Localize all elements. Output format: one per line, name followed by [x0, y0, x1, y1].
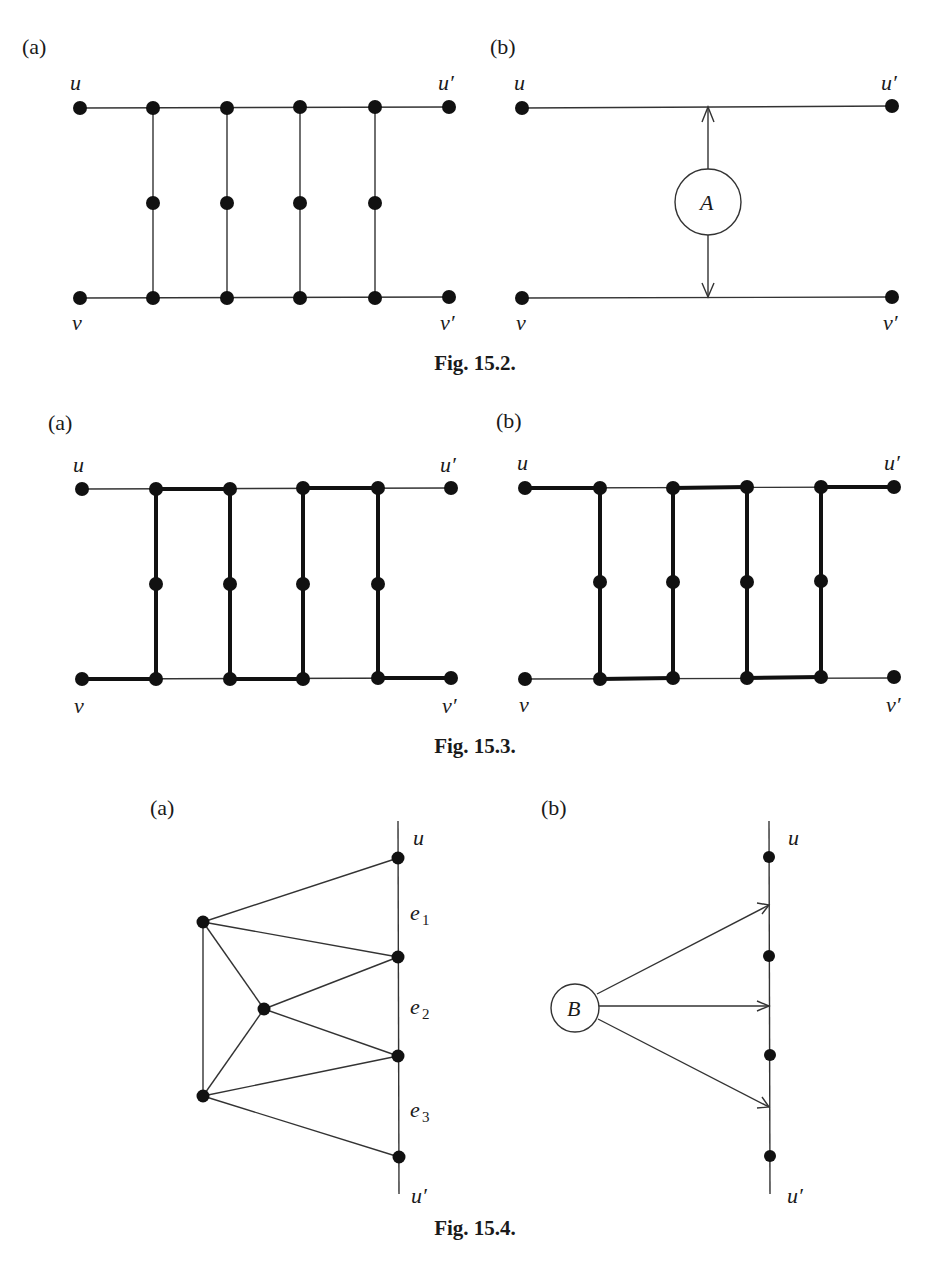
vertex-label-u: u [70, 70, 81, 95]
vertex-label-v: v [74, 693, 84, 718]
fig-15-2-panel-b: (b) A u u′ v v′ [490, 34, 899, 335]
edge [264, 1009, 398, 1056]
vertex-label-u-prime: u′ [881, 70, 898, 95]
edge [203, 1056, 398, 1096]
edge-label-e3: e 3 [410, 1097, 430, 1125]
figure-caption: Fig. 15.3. [434, 734, 516, 758]
vertex-label-u-prime: u′ [787, 1183, 804, 1208]
fig-15-2-panel-a: (a) u u′ v v′ [22, 34, 456, 335]
edge-top-rail [80, 107, 449, 108]
fig-15-3-panel-a: (a) [48, 410, 458, 718]
vertex-group [518, 480, 901, 686]
edge-bottom-rail [80, 297, 449, 298]
edge-bottom-rail [522, 297, 892, 298]
vertex-label-v-prime: v′ [440, 310, 456, 335]
panel-label: (b) [496, 408, 522, 433]
vertex-label-v-prime: v′ [883, 310, 899, 335]
panel-label: (b) [490, 34, 516, 59]
svg-text:e: e [410, 1097, 420, 1122]
edge-label-e2: e 2 [410, 994, 430, 1022]
vertex-group [197, 852, 406, 1164]
block-label: A [698, 190, 714, 215]
edge [203, 922, 264, 1009]
panel-label: (a) [22, 34, 46, 59]
vertex-label-u-prime: u′ [411, 1183, 428, 1208]
vertex-label-u: u [514, 70, 525, 95]
edge [203, 1009, 264, 1096]
vertex-label-v: v [516, 310, 526, 335]
edge-top-rail [82, 488, 451, 489]
vertex-label-v: v [72, 310, 82, 335]
arrow [597, 905, 769, 994]
panel-label: (a) [48, 410, 72, 435]
edge [203, 858, 398, 922]
svg-text:1: 1 [422, 912, 430, 928]
edge-label-e1: e 1 [410, 900, 430, 928]
edge-bottom-rail [525, 678, 894, 679]
edge [264, 957, 398, 1009]
highlighted-path [82, 488, 451, 679]
svg-text:e: e [410, 994, 420, 1019]
vertex-label-u: u [413, 825, 424, 850]
vertex-label-v-prime: v′ [886, 692, 902, 717]
vertex-label-u: u [517, 450, 528, 475]
fig-15-4-panel-b: (b) B u u′ [541, 795, 804, 1208]
vertex-label-u-prime: u′ [440, 452, 457, 477]
vertex-label-v: v [519, 692, 529, 717]
block-label: B [567, 996, 580, 1021]
panel-label: (b) [541, 795, 567, 820]
edge-main-path [398, 821, 399, 1194]
vertex-label-u-prime: u′ [438, 70, 455, 95]
edge [203, 922, 398, 957]
vertex-label-u: u [73, 452, 84, 477]
vertex-label-v-prime: v′ [442, 693, 458, 718]
figure-caption: Fig. 15.2. [434, 351, 516, 375]
vertex-group [73, 100, 456, 305]
vertex-label-u-prime: u′ [884, 450, 901, 475]
arrow [598, 1019, 769, 1107]
fig-15-4-panel-a: (a) u u′ e 1 e 2 [150, 795, 430, 1208]
highlighted-path [525, 487, 894, 679]
svg-text:3: 3 [422, 1109, 430, 1125]
panel-label: (a) [150, 795, 174, 820]
edge [203, 1096, 399, 1157]
svg-text:2: 2 [422, 1006, 430, 1022]
vertex-label-u: u [788, 825, 799, 850]
edge-main-path [769, 821, 770, 1194]
vertex-group [75, 481, 458, 686]
figure-caption: Fig. 15.4. [434, 1216, 516, 1240]
svg-text:e: e [410, 900, 420, 925]
fig-15-3-panel-b: (b) [496, 408, 902, 717]
